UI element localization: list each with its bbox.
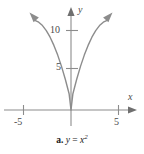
y-axis-arrowhead-icon [67, 7, 74, 16]
y-axis-ticks [66, 31, 78, 69]
x-axis-arrowhead-icon [128, 106, 137, 113]
coordinate-plot-svg [0, 0, 144, 132]
caption-exponent: 2 [84, 133, 88, 141]
x-tick-label-neg5: -5 [14, 117, 22, 127]
x-tick-label-pos5: 5 [114, 117, 119, 127]
parabola-figure: 10 5 -5 5 y x a. y = x2 [0, 0, 144, 154]
y-tick-label-10: 10 [50, 25, 60, 35]
plot-area: 10 5 -5 5 y x [0, 0, 144, 132]
figure-caption: a. y = x2 [0, 134, 144, 146]
y-axis-label: y [78, 5, 82, 15]
y-tick-label-5: 5 [56, 62, 61, 72]
x-axis-label: x [128, 92, 132, 102]
